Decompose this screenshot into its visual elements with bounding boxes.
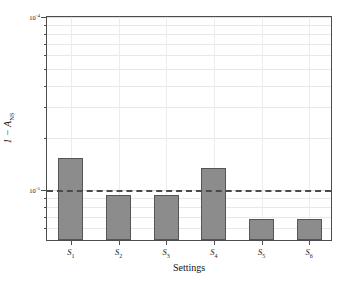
x-axis-tick-label: S2 [115, 247, 122, 259]
x-axis-tick-label: S6 [306, 247, 313, 259]
y-axis-label-main: 1 − A [2, 121, 13, 144]
figure: 10-410-5S1S2S3S4S5S6 1 − ANS Settings [0, 0, 361, 285]
y-axis-minor-tick [44, 228, 47, 229]
x-axis-tick-label: S3 [163, 247, 170, 259]
x-axis-tick [71, 240, 72, 245]
x-axis-tick [309, 240, 310, 245]
plot-area: 10-410-5S1S2S3S4S5S6 [46, 16, 332, 241]
y-axis-minor-tick [44, 25, 47, 26]
y-axis-minor-tick [44, 217, 47, 218]
x-axis-tick-label: S4 [210, 247, 217, 259]
minor-gridline [47, 207, 331, 208]
y-axis-minor-tick [44, 207, 47, 208]
reference-line [47, 190, 331, 192]
minor-gridline [47, 138, 331, 139]
minor-gridline [47, 107, 331, 108]
x-axis-tick-label: S5 [258, 247, 265, 259]
bar [154, 195, 179, 240]
bar [249, 219, 274, 240]
minor-gridline [47, 217, 331, 218]
category-gridline [262, 17, 263, 240]
minor-gridline [47, 69, 331, 70]
minor-gridline [47, 25, 331, 26]
minor-gridline [47, 86, 331, 87]
minor-gridline [47, 34, 331, 35]
x-axis-tick-label: S1 [67, 247, 74, 259]
y-axis-minor-tick [44, 44, 47, 45]
minor-gridline [47, 55, 331, 56]
y-axis-minor-tick [44, 198, 47, 199]
y-axis-minor-tick [44, 69, 47, 70]
minor-gridline [47, 44, 331, 45]
x-axis-tick [166, 240, 167, 245]
y-axis-minor-tick [44, 138, 47, 139]
bar [106, 195, 131, 240]
y-axis-tick-label: 10-5 [29, 186, 40, 194]
x-axis-label: Settings [46, 262, 332, 273]
x-axis-tick [214, 240, 215, 245]
y-axis-minor-tick [44, 34, 47, 35]
bar [297, 219, 322, 240]
bar [58, 158, 83, 241]
minor-gridline [47, 198, 331, 199]
y-axis-tick [41, 17, 47, 18]
x-axis-tick [262, 240, 263, 245]
major-gridline [47, 17, 331, 18]
y-axis-minor-tick [44, 107, 47, 108]
x-axis-tick [119, 240, 120, 245]
y-axis-label-subscript: NS [8, 113, 15, 121]
y-axis-minor-tick [44, 86, 47, 87]
bar [201, 168, 226, 240]
y-axis-minor-tick [44, 55, 47, 56]
category-gridline [309, 17, 310, 240]
y-axis-tick-label: 10-4 [29, 13, 40, 21]
y-axis-label: 1 − ANS [2, 113, 15, 144]
minor-gridline [47, 228, 331, 229]
